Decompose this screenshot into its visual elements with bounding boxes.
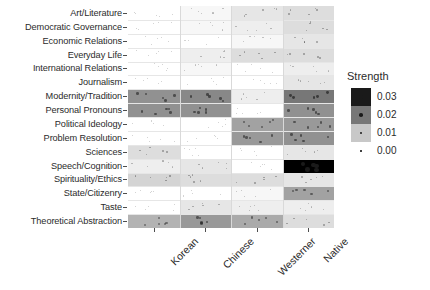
heatmap-cell: [128, 89, 180, 103]
data-point: [243, 93, 244, 94]
legend-dot: [359, 113, 363, 117]
data-point: [260, 80, 261, 81]
y-axis-tick: [123, 152, 127, 153]
data-point: [319, 57, 320, 58]
data-point: [245, 136, 247, 138]
data-point: [266, 23, 267, 24]
legend-title: Strength: [347, 70, 427, 82]
data-point: [222, 29, 223, 30]
data-point: [141, 110, 144, 113]
data-point: [288, 13, 289, 14]
data-point: [156, 53, 157, 54]
heatmap-cell: [180, 34, 232, 48]
grid-line-vertical: [231, 6, 232, 228]
legend-dot: [359, 95, 364, 100]
legend-key: 0.01: [347, 124, 427, 142]
heatmap-cell: [128, 214, 180, 228]
data-point: [315, 111, 318, 114]
y-axis-label: Journalism: [79, 75, 122, 89]
heatmap-cell: [180, 200, 232, 214]
data-point: [161, 81, 162, 82]
x-axis-label: Korean: [168, 235, 200, 267]
y-axis-label: Problem Resolution: [44, 131, 122, 145]
data-point: [164, 99, 167, 102]
heatmap-cell: [180, 186, 232, 200]
data-point: [151, 121, 152, 122]
grid-line-vertical: [283, 6, 284, 228]
data-point: [135, 78, 136, 79]
heatmap-cell: [231, 145, 283, 159]
data-point: [314, 168, 319, 173]
y-axis-tick: [123, 207, 127, 208]
data-point: [258, 210, 259, 211]
data-point: [149, 147, 150, 148]
heatmap-cell: [180, 159, 232, 173]
y-axis-label: Art/Literature: [70, 6, 122, 20]
data-point: [136, 92, 139, 95]
data-point: [168, 162, 169, 163]
data-point: [174, 204, 175, 205]
heatmap-cell: [231, 103, 283, 117]
data-point: [245, 71, 246, 72]
data-point: [256, 30, 257, 31]
data-point: [314, 151, 315, 152]
data-point: [200, 56, 201, 57]
heatmap-cell: [231, 62, 283, 76]
data-point: [270, 28, 271, 29]
heatmap-panel: [128, 6, 334, 228]
data-point: [316, 95, 319, 98]
heatmap-cell: [231, 20, 283, 34]
y-axis-label: International Relations: [33, 61, 122, 75]
data-point: [162, 160, 163, 161]
heatmap-cell: [231, 34, 283, 48]
heatmap-cell: [231, 173, 283, 187]
y-axis-label: Personal Pronouns: [46, 103, 122, 117]
data-point: [317, 113, 320, 116]
data-point: [159, 16, 160, 17]
data-point: [311, 206, 312, 207]
y-axis-tick: [123, 27, 127, 28]
data-point: [168, 41, 169, 42]
heatmap-cell: [231, 159, 283, 173]
data-point: [262, 9, 263, 10]
y-axis-tick: [123, 55, 127, 56]
y-axis-label: Theoretical Abstraction: [31, 214, 122, 228]
data-point: [220, 56, 221, 57]
data-point: [169, 175, 171, 177]
data-point: [236, 191, 237, 192]
data-point: [257, 113, 258, 114]
data-point: [156, 15, 157, 16]
data-point: [174, 141, 175, 142]
data-point: [243, 41, 244, 42]
data-point: [190, 176, 191, 177]
legend-swatch: [351, 88, 371, 106]
heatmap-cell: [231, 200, 283, 214]
data-point: [172, 14, 173, 15]
y-axis-tick: [123, 110, 127, 111]
data-point: [153, 23, 154, 24]
data-point: [292, 66, 293, 67]
data-point: [210, 22, 211, 23]
data-point: [218, 37, 219, 38]
data-point: [161, 37, 162, 38]
heatmap-cell: [128, 200, 180, 214]
data-point: [289, 53, 290, 54]
y-axis-label: Spirituality/Ethics: [54, 172, 122, 186]
data-point: [307, 126, 309, 128]
y-axis-tick: [123, 96, 127, 97]
data-point: [154, 113, 157, 116]
data-point: [216, 64, 217, 65]
x-axis-label: Chinese: [221, 235, 257, 271]
data-point: [316, 41, 317, 42]
y-axis-tick: [123, 13, 127, 14]
data-point: [316, 71, 317, 72]
heatmap-cell: [283, 214, 335, 228]
data-point: [301, 176, 302, 177]
data-point: [260, 166, 261, 167]
x-axis-label: Westerner: [275, 235, 318, 278]
data-point: [254, 182, 255, 183]
data-point: [188, 209, 189, 210]
y-axis-label: State/Citizenry: [64, 186, 122, 200]
data-point: [172, 166, 173, 167]
y-axis-label: Political Ideology: [55, 117, 122, 131]
